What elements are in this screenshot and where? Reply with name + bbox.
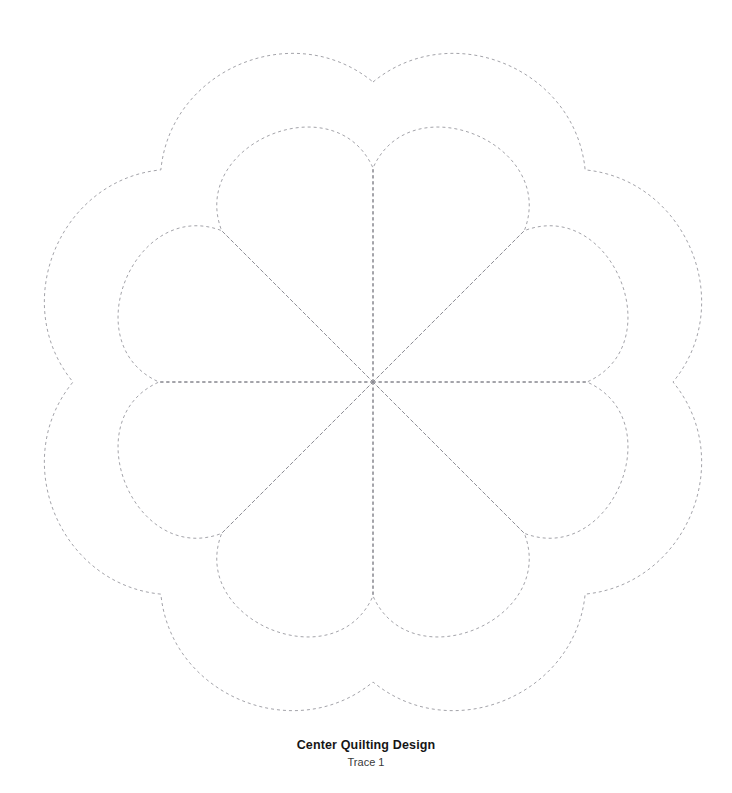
caption-subtitle: Trace 1 [0, 755, 732, 769]
caption: Center Quilting Design Trace 1 [0, 738, 732, 769]
quilting-design-figure [0, 0, 732, 793]
petal-outline [118, 226, 373, 382]
quilting-design-page: Center Quilting Design Trace 1 [0, 0, 732, 793]
page-title: Center Quilting Design [0, 738, 732, 753]
petal-outline [373, 382, 529, 637]
petal-outline [373, 226, 628, 382]
petal-outline [373, 382, 628, 538]
petal-outline [217, 382, 373, 637]
petal-outline [217, 127, 373, 382]
petal-outline [373, 127, 529, 382]
petal-outline [118, 382, 373, 538]
